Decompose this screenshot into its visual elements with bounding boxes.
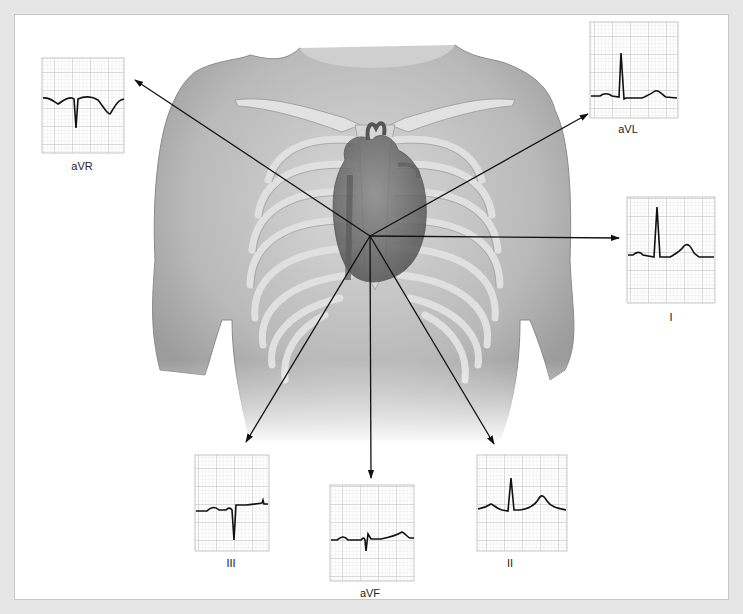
label-aVR: aVR xyxy=(52,160,112,172)
ecg-panel-III xyxy=(195,455,269,551)
ecg-panel-I xyxy=(627,197,715,303)
ecg-panel-aVF xyxy=(330,485,414,581)
ecg-limb-lead-diagram xyxy=(0,0,743,614)
ecg-panel-II xyxy=(477,455,567,551)
label-III: III xyxy=(201,557,261,569)
label-II: II xyxy=(480,557,540,569)
ecg-panel-aVL xyxy=(590,22,678,118)
ecg-panel-aVR xyxy=(42,58,124,153)
label-I: I xyxy=(641,311,701,323)
label-aVL: aVL xyxy=(598,123,658,135)
label-aVF: aVF xyxy=(340,587,400,599)
